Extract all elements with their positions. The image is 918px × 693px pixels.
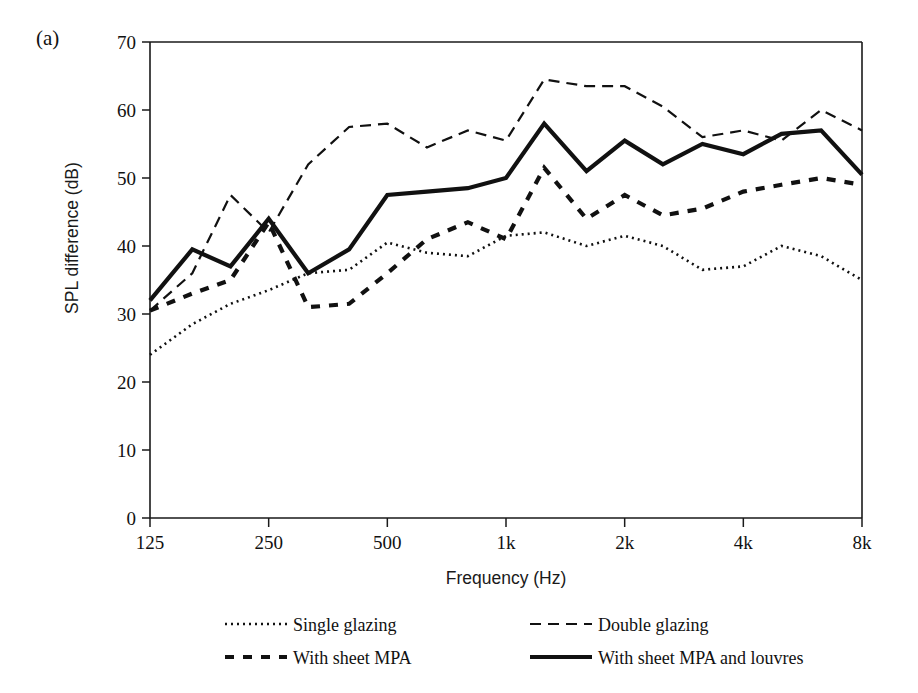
y-tick-label: 40 [117,236,136,257]
axis-spines [150,42,862,518]
legend-label: Single glazing [293,615,396,635]
y-tick-label: 10 [117,440,136,461]
x-tick-label: 2k [615,532,635,553]
y-tick-label: 30 [117,304,136,325]
x-tick-label: 4k [734,532,754,553]
panel-label: (a) [36,26,59,51]
series-line-double-glazing [150,79,862,310]
x-tick-label: 250 [254,532,283,553]
x-tick-label: 500 [373,532,402,553]
y-axis-title: SPL difference (dB) [62,162,82,314]
legend-label: With sheet MPA and louvres [598,648,804,668]
x-tick-label: 8k [853,532,873,553]
plot-area: 0102030405060701252505001k2k4k8kFrequenc… [62,32,872,668]
x-tick-label: 1k [497,532,517,553]
spl-difference-line-chart: 0102030405060701252505001k2k4k8kFrequenc… [0,0,918,693]
series-line-single-glazing [150,232,862,354]
x-axis-title: Frequency (Hz) [446,568,567,588]
series-line-with-sheet-mpa-and-louvres [150,124,862,301]
y-tick-label: 50 [117,168,136,189]
y-tick-label: 0 [127,508,137,529]
y-tick-label: 60 [117,100,136,121]
figure-panel-a: (a) 0102030405060701252505001k2k4k8kFreq… [0,0,918,693]
y-tick-label: 70 [117,32,136,53]
y-tick-label: 20 [117,372,136,393]
legend-label: With sheet MPA [293,648,412,668]
x-tick-label: 125 [136,532,165,553]
series-line-with-sheet-mpa [150,168,862,311]
legend-label: Double glazing [598,615,708,635]
